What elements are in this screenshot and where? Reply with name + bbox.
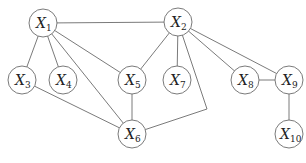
nodes-layer: X1X2X3X4X5X6X7X8X9X10 [8, 8, 303, 148]
node-x1: X1 [29, 9, 57, 37]
node-x7: X7 [163, 66, 191, 94]
edge-x1-x2 [43, 22, 178, 23]
node-x8: X8 [231, 66, 259, 94]
graph-diagram: X1X2X3X4X5X6X7X8X9X10 [0, 0, 306, 163]
node-x10: X10 [275, 120, 303, 148]
node-x5: X5 [118, 66, 146, 94]
node-x4: X4 [49, 66, 77, 94]
edge-x3-x6 [22, 80, 132, 134]
node-x3: X3 [8, 66, 36, 94]
node-x9: X9 [275, 66, 303, 94]
node-x6: X6 [118, 120, 146, 148]
node-x2: X2 [164, 8, 192, 36]
